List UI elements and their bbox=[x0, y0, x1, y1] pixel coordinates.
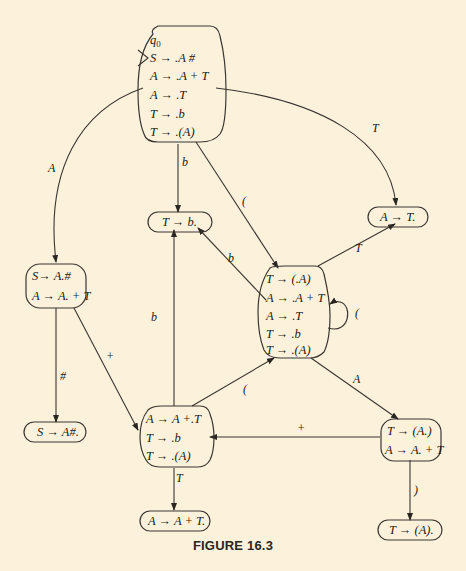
item: A → A. + T bbox=[31, 289, 91, 303]
item: A → A. + T bbox=[384, 443, 444, 457]
item: S → A#. bbox=[37, 425, 79, 439]
item: T → .(A) bbox=[266, 343, 311, 357]
edge-s-A-hash-to-a-plus bbox=[74, 308, 138, 430]
edge-label-A: A bbox=[352, 372, 361, 386]
edges bbox=[54, 50, 410, 520]
edge-label-b: b bbox=[151, 310, 157, 324]
edge-label-paren: ( bbox=[242, 194, 247, 208]
state-s-A-hash: S→ A.# A → A. + T bbox=[26, 264, 91, 308]
edge-labels: A b ( T # + b T ( A b ( T + ) bbox=[47, 121, 418, 497]
edge-label-b: b bbox=[228, 251, 234, 265]
state-a-plus-final: A → A + T. bbox=[140, 511, 210, 531]
edge-label-paren: ( bbox=[355, 306, 360, 320]
edge-t-paren-to-t-A-dot bbox=[311, 358, 398, 419]
item: T → b. bbox=[162, 215, 197, 229]
edge-label-paren: ( bbox=[243, 382, 248, 396]
item: A → .T bbox=[149, 88, 187, 102]
item: A → A +.T bbox=[145, 412, 202, 426]
item: T → .b bbox=[266, 327, 301, 341]
state-t-close: T → (A). bbox=[378, 520, 442, 540]
edge-label-b: b bbox=[182, 155, 188, 169]
item: T → .b bbox=[150, 107, 185, 121]
edge-q0-to-a-T bbox=[216, 88, 396, 205]
item: A → T. bbox=[379, 210, 415, 224]
edge-a-plus-to-t-paren bbox=[192, 358, 274, 406]
item: A → .T bbox=[265, 309, 303, 323]
item: A → .A + T bbox=[149, 69, 209, 83]
lr-automaton-diagram: A b ( T # + b T ( A b ( T + ) q0 S → .A … bbox=[0, 0, 466, 571]
edge-label-hash: # bbox=[60, 369, 67, 383]
edge-label-T: T bbox=[355, 241, 363, 255]
edge-label-close-paren: ) bbox=[413, 483, 418, 497]
item: A → .A + T bbox=[265, 291, 325, 305]
state-a-plus: A → A +.T T → .b T → .(A) bbox=[140, 406, 214, 467]
edge-label-T: T bbox=[176, 471, 184, 485]
item: S→ A.# bbox=[32, 269, 71, 283]
edge-label-plus: + bbox=[297, 421, 305, 435]
state-s-final: S → A#. bbox=[24, 422, 86, 442]
item: T → .b bbox=[146, 431, 181, 445]
edge-label-plus: + bbox=[106, 349, 114, 363]
edge-t-paren-self-loop bbox=[328, 302, 348, 329]
state-t-paren: T → (.A) A → .A + T A → .T T → .b T → .(… bbox=[258, 266, 330, 358]
state-t-A-dot: T → (A.) A → A. + T bbox=[381, 419, 444, 461]
edge-label-A: A bbox=[47, 161, 56, 175]
state-q0: q0 S → .A # A → .A + T A → .T T → .b T →… bbox=[138, 26, 226, 142]
item: T → .(A) bbox=[150, 125, 195, 139]
item: T → (.A) bbox=[266, 272, 311, 286]
item: T → (A.) bbox=[387, 424, 432, 438]
item: A → A + T. bbox=[147, 514, 205, 528]
item: S → .A # bbox=[150, 51, 196, 65]
state-a-T: A → T. bbox=[368, 207, 428, 227]
figure-caption: FIGURE 16.3 bbox=[0, 538, 466, 553]
item: T → (A). bbox=[389, 523, 434, 537]
item: T → .(A) bbox=[146, 449, 191, 463]
edge-label-T: T bbox=[372, 121, 380, 135]
state-t-b: T → b. bbox=[148, 212, 212, 232]
edge-q0-to-s-A-hash bbox=[54, 88, 143, 262]
edge-q0-to-t-paren bbox=[196, 142, 278, 268]
state-label: q0 bbox=[150, 33, 161, 49]
